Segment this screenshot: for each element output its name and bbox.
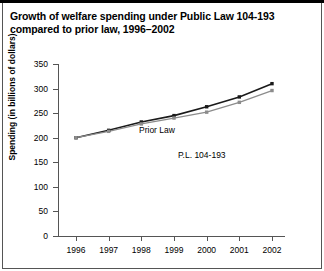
data-point-marker	[270, 89, 273, 92]
data-point-marker	[238, 95, 241, 98]
chart-figure: Growth of welfare spending under Public …	[0, 0, 324, 271]
data-point-marker	[107, 130, 110, 133]
data-point-marker	[205, 110, 208, 113]
series-annotation-pl-104-193: P.L. 104-193	[178, 150, 226, 160]
data-point-marker	[172, 116, 175, 119]
series-annotation-prior-law: Prior Law	[139, 125, 175, 135]
data-point-marker	[74, 136, 77, 139]
data-point-marker	[238, 101, 241, 104]
data-point-marker	[205, 105, 208, 108]
data-point-marker	[270, 82, 273, 85]
plot-series-layer	[0, 0, 324, 271]
